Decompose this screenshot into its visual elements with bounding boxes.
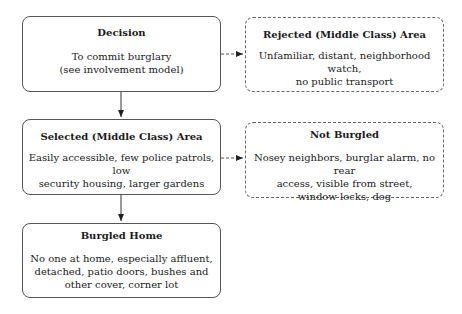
not-burgled-line-1: Nosey neighbors, burglar alarm, no rear (246, 151, 443, 177)
rejected-area-node: Rejected (Middle Class) Area Unfamiliar,… (245, 17, 444, 92)
burgled-line-1: No one at home, especially affluent, (23, 252, 220, 265)
decision-title: Decision (23, 26, 220, 39)
rejected-line-1: Unfamiliar, distant, neighborhood watch, (246, 49, 443, 75)
burgled-line-3: other cover, corner lot (23, 278, 220, 291)
not-burgled-node: Not Burgled Nosey neighbors, burglar ala… (245, 122, 444, 198)
selected-title: Selected (Middle Class) Area (23, 130, 220, 143)
not-burgled-line-3: window locks, dog (246, 190, 443, 203)
burgled-line-2: detached, patio doors, bushes and (23, 265, 220, 278)
burgled-home-node: Burgled Home No one at home, especially … (22, 223, 221, 298)
rejected-title: Rejected (Middle Class) Area (246, 28, 443, 41)
burgled-title: Burgled Home (23, 229, 220, 242)
decision-line-2: (see involvement model) (23, 63, 220, 76)
decision-line-1: To commit burglary (23, 50, 220, 63)
selected-line-2: security housing, larger gardens (23, 177, 220, 190)
selected-line-1: Easily accessible, few police patrols, l… (23, 151, 220, 177)
decision-node: Decision To commit burglary (see involve… (22, 16, 221, 92)
rejected-line-2: no public transport (246, 75, 443, 88)
not-burgled-title: Not Burgled (246, 128, 443, 141)
not-burgled-line-2: access, visible from street, (246, 177, 443, 190)
selected-area-node: Selected (Middle Class) Area Easily acce… (22, 119, 221, 195)
